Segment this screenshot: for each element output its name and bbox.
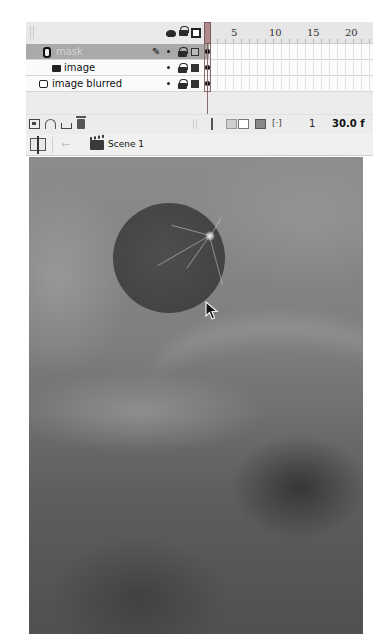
eye-icon[interactable] bbox=[166, 30, 176, 37]
ruler-ticks bbox=[209, 39, 373, 43]
lock-icon[interactable] bbox=[178, 47, 187, 57]
back-arrow-icon[interactable]: ← bbox=[61, 138, 70, 151]
frame-rate[interactable]: 30.0 f bbox=[332, 118, 365, 129]
outline-square-icon[interactable] bbox=[191, 28, 201, 38]
pen-icon: ✎ bbox=[152, 46, 160, 57]
layer-name[interactable]: mask bbox=[56, 46, 83, 57]
center-frame-icon[interactable] bbox=[211, 118, 213, 130]
normal-layer-icon bbox=[39, 80, 48, 88]
background-light-streak bbox=[149, 317, 363, 457]
ruler-label-10: 10 bbox=[269, 27, 282, 38]
edit-bar: ← Scene 1 bbox=[26, 134, 373, 156]
mask-layer-icon bbox=[43, 47, 51, 58]
visibility-dot[interactable] bbox=[167, 50, 170, 53]
masked-layer-icon bbox=[52, 65, 61, 72]
lock-icon[interactable] bbox=[178, 63, 187, 73]
scroll-grip-handle[interactable] bbox=[193, 119, 197, 129]
new-folder-icon[interactable] bbox=[61, 123, 72, 129]
layer-name[interactable]: image bbox=[64, 62, 95, 73]
frame-ruler[interactable]: 5 10 15 20 bbox=[209, 22, 373, 44]
flash-editor-window: 5 10 15 20 mask ✎ image image blurred bbox=[0, 0, 373, 640]
layer-row-mask[interactable]: mask ✎ bbox=[26, 44, 209, 60]
ruler-label-15: 15 bbox=[307, 27, 320, 38]
panel-grip-handle[interactable] bbox=[30, 26, 34, 39]
frames-grid[interactable] bbox=[209, 44, 373, 92]
ruler-label-5: 5 bbox=[231, 27, 237, 38]
layer-row-image-blurred[interactable]: image blurred bbox=[26, 76, 209, 92]
current-frame-number: 1 bbox=[309, 118, 315, 129]
playhead-handle[interactable] bbox=[204, 22, 211, 44]
filled-square-icon[interactable] bbox=[191, 80, 199, 88]
visibility-dot[interactable] bbox=[167, 66, 170, 69]
ruler-label-20: 20 bbox=[345, 27, 358, 38]
onion-skin-outlines-icon[interactable] bbox=[238, 119, 249, 129]
visibility-dot[interactable] bbox=[167, 82, 170, 85]
divider bbox=[52, 137, 53, 153]
layer-row-image[interactable]: image bbox=[26, 60, 209, 76]
lock-icon[interactable] bbox=[179, 26, 188, 36]
current-frame-column bbox=[204, 44, 211, 92]
light-spark bbox=[205, 231, 215, 241]
layer-name[interactable]: image blurred bbox=[52, 78, 122, 89]
timeline-empty-area bbox=[26, 92, 373, 114]
scene-clapper-icon bbox=[90, 140, 104, 150]
edit-multiple-frames-icon[interactable] bbox=[255, 119, 266, 129]
filled-square-icon[interactable] bbox=[191, 64, 199, 72]
modify-onion-markers-icon[interactable]: [·] bbox=[272, 118, 284, 128]
new-layer-icon[interactable] bbox=[29, 119, 40, 129]
outline-square-icon[interactable] bbox=[191, 48, 199, 56]
timeline-footer-toolbar: [·] 1 30.0 f bbox=[26, 114, 373, 134]
motion-guide-icon[interactable] bbox=[45, 119, 56, 129]
timeline-toggle-icon[interactable] bbox=[30, 138, 46, 151]
trash-icon[interactable] bbox=[77, 119, 85, 129]
timeline-panel: 5 10 15 20 mask ✎ image image blurred bbox=[26, 22, 373, 114]
stage-canvas[interactable] bbox=[29, 157, 363, 634]
scene-label[interactable]: Scene 1 bbox=[108, 139, 144, 149]
onion-skin-icon[interactable] bbox=[226, 119, 237, 129]
lock-icon[interactable] bbox=[178, 79, 187, 89]
